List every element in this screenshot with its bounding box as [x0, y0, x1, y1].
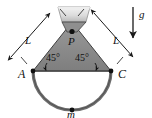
support-block [58, 7, 90, 22]
point-c-dot [109, 69, 114, 74]
point-c-label: C [118, 67, 127, 81]
apex-point-label: P [67, 35, 75, 47]
point-a-dot [31, 69, 36, 74]
point-a-label: A [17, 67, 26, 81]
gravity-label: g [139, 8, 145, 20]
angle-left-label: 45° [46, 52, 60, 63]
figure-canvas: L L 45° 45° P A C m g [0, 0, 152, 118]
dimension-right-tick-b [117, 57, 123, 64]
length-right-label: L [112, 34, 119, 46]
pendulum-arc [33, 71, 111, 110]
angle-right-label: 45° [75, 52, 89, 63]
gravity-indicator: g [133, 7, 145, 38]
pendulum-arc-inner-edge [33, 71, 111, 110]
mass-label: m [67, 108, 75, 118]
length-left-label: L [24, 34, 31, 46]
pendulum-figure: L L 45° 45° P A C m g [0, 0, 152, 118]
dimension-left-tick-a [21, 57, 27, 64]
apex-point-dot [69, 29, 74, 34]
support-block-highlight [58, 7, 90, 10]
